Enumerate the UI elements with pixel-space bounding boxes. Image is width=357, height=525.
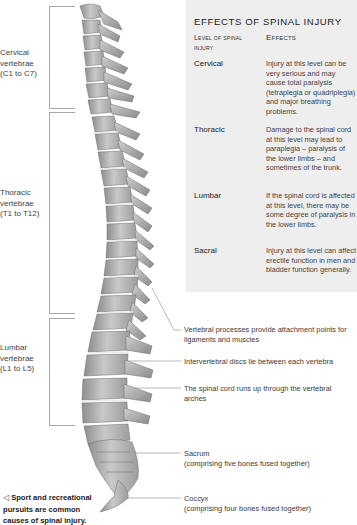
level-cervical: Cervical <box>194 59 223 68</box>
photo-caption: ◁ Sport and recreational pursuits are co… <box>3 492 103 525</box>
bracket-cervical <box>49 6 75 109</box>
panel-title: EFFECTS OF SPINAL INJURY <box>194 16 342 27</box>
effect-lumbar: If the spinal cord is affected at this l… <box>266 191 356 229</box>
region-label-thoracic: Thoracic vertebrae (T1 to T12) <box>0 188 48 220</box>
annotation-coccyx: Coccyx (comprising four bones fused toge… <box>184 494 356 514</box>
sacrum-desc: (comprising five bones fused together) <box>184 459 356 469</box>
effects-panel: EFFECTS OF SPINAL INJURY Level of spinal… <box>186 0 357 292</box>
annotation-sacrum: Sacrum (comprising five bones fused toge… <box>184 449 356 469</box>
caption-text: Sport and recreational pursuits are comm… <box>3 493 92 525</box>
level-lumbar: Lumbar <box>194 191 221 200</box>
left-triangle-icon: ◁ <box>3 493 9 502</box>
bracket-thoracic <box>49 112 75 314</box>
annotation-spinal-cord: The spinal cord runs up through the vert… <box>184 384 334 404</box>
annotation-vertebral-processes: Vertebral processes provide attachment p… <box>184 325 356 345</box>
cervical-vertebrae <box>80 4 140 118</box>
effect-thoracic: Damage to the spinal cord at this level … <box>266 125 356 173</box>
thoracic-vertebrae <box>92 116 154 340</box>
region-label-lumbar: Lumbar vertebrae (L1 to L5) <box>0 343 48 375</box>
sacrum-title: Sacrum <box>184 449 356 459</box>
level-thoracic: Thoracic <box>194 125 225 134</box>
bracket-lumbar <box>49 318 75 426</box>
effect-sacral: Injury at this level can affect erectile… <box>266 246 356 275</box>
effect-cervical: Injury at this level can be very serious… <box>266 59 356 116</box>
column-header-level: Level of spinal injury <box>194 33 258 53</box>
region-label-cervical: Cervical vertebrae (C1 to C7) <box>0 48 48 80</box>
level-sacral: Sacral <box>194 246 217 255</box>
annotation-intervertebral-discs: Intervertebral discs lie between each ve… <box>184 357 356 367</box>
lumbar-vertebrae <box>82 331 153 444</box>
coccyx-title: Coccyx <box>184 494 356 504</box>
coccyx-desc: (comprising four bones fused together) <box>184 504 356 514</box>
column-header-effects: Effects <box>266 33 296 43</box>
